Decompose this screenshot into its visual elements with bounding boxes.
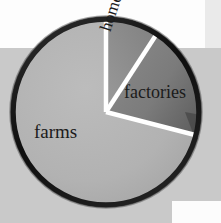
- slice-label-farms: farms: [34, 122, 77, 141]
- slice-label-factories: factories: [124, 83, 186, 101]
- pie-chart-svg: [0, 0, 221, 223]
- pie-chart-figure: farms factories homes: [0, 0, 221, 223]
